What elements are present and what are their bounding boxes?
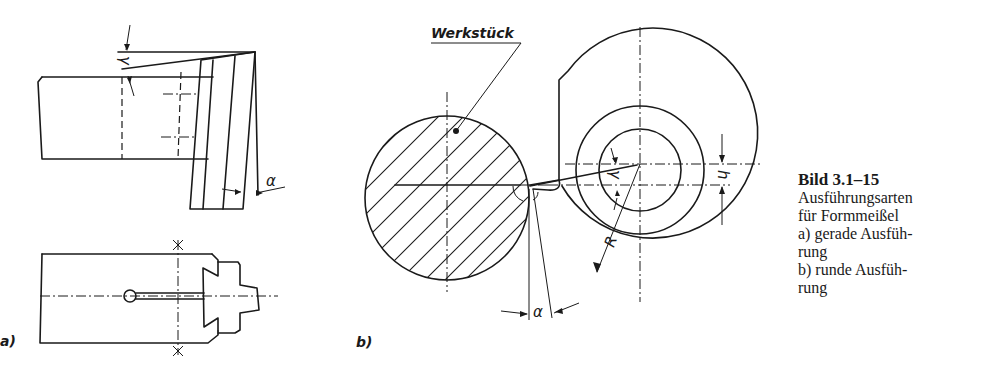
clearance-angle-label-b: α [533, 303, 543, 321]
panel-a-side-view: γ α [38, 25, 285, 209]
caption-title: Bild 3.1–15 [798, 171, 983, 189]
caption-line: a) gerade Ausfüh- [798, 225, 983, 243]
figure-caption: Bild 3.1–15 Ausführungsarten für Formmei… [798, 171, 983, 297]
rake-angle-label-b: γ [606, 170, 624, 180]
workpiece-section [340, 43, 560, 320]
panel-a-top-view [40, 240, 278, 356]
panel-b-label: b) [356, 334, 372, 350]
radius-label: R [600, 234, 620, 250]
caption-line: b) runde Ausfüh- [798, 261, 983, 279]
rake-angle-label-a: γ [116, 56, 134, 66]
panel-a-label: a) [0, 333, 16, 349]
caption-line: rung [798, 279, 983, 297]
workpiece-label: Werkstück [431, 25, 516, 41]
height-label: h [714, 170, 732, 180]
caption-line: Ausführungsarten [798, 189, 983, 207]
round-tool: R γ h α [501, 27, 762, 321]
clearance-angle-label-a: α [266, 172, 276, 190]
technical-drawing: γ α a) [0, 0, 985, 378]
caption-line: rung [798, 243, 983, 261]
caption-line: für Formmeißel [798, 207, 983, 225]
